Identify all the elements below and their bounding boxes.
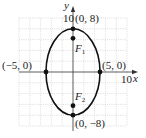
right-vertex-label: (5, 0)	[102, 59, 126, 72]
left-vertex-dot	[44, 70, 49, 75]
focus-1-dot	[71, 36, 76, 41]
y-axis-label: y	[63, 0, 69, 11]
y-tick-label: 10	[63, 12, 75, 24]
focus-2-dot	[71, 103, 76, 108]
x-tick-label: 10	[121, 73, 133, 85]
ellipse-diagram: y 10 (0, 8) F1 (−5, 0) (5, 0) 10 x F2 (0…	[0, 0, 146, 138]
top-vertex-label: (0, 8)	[75, 12, 99, 25]
focus-1-subscript: 1	[82, 48, 86, 56]
bottom-vertex-label: (0, −8)	[75, 117, 105, 130]
focus-2-label: F2	[74, 90, 86, 104]
x-axis-label: x	[132, 72, 138, 84]
left-vertex-label: (−5, 0)	[2, 59, 32, 72]
top-vertex-dot	[71, 26, 76, 31]
focus-2-subscript: 2	[82, 96, 86, 104]
focus-1-label: F1	[74, 42, 86, 56]
